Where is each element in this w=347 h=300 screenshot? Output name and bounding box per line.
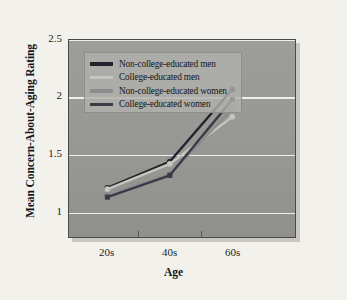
data-point-marker (105, 186, 111, 192)
data-point-marker (105, 195, 110, 200)
legend-item-label: Non-college-educated men (119, 59, 216, 69)
legend-item-label: Non-college-educated women (119, 86, 227, 96)
y-axis-tick-label: 1.5 (32, 147, 62, 159)
y-axis-tick-label: 1 (32, 205, 62, 217)
legend-item: Non-college-educated men (90, 57, 236, 71)
legend-swatch-icon (90, 89, 113, 93)
x-axis-minor-tick (201, 231, 203, 238)
data-point-marker (229, 114, 235, 120)
legend-item-label: College-educated women (119, 99, 210, 109)
legend-item: College-educated men (90, 71, 236, 85)
y-axis-title: Mean Concern-About-Aging Rating (24, 31, 36, 231)
data-point-marker (167, 161, 173, 167)
y-axis-tick-label: 2 (32, 89, 62, 101)
plot-area: Non-college-educated menCollege-educated… (68, 39, 296, 238)
chart-legend: Non-college-educated menCollege-educated… (84, 52, 242, 113)
legend-item: Non-college-educated women (90, 84, 236, 98)
y-axis-tick-label: 2.5 (32, 32, 62, 44)
data-point-marker (167, 173, 172, 178)
legend-swatch-icon (90, 62, 113, 66)
x-axis-tick-label: 40s (145, 246, 195, 258)
x-axis-minor-tick (138, 231, 140, 238)
x-axis-tick-label: 20s (82, 246, 132, 258)
x-axis-title: Age (0, 266, 347, 278)
chart-figure: Mean Concern-About-Aging Rating 2.521.51… (0, 0, 347, 300)
legend-swatch-icon (90, 76, 113, 80)
legend-swatch-icon (90, 103, 113, 107)
x-axis-tick-label: 60s (208, 246, 258, 258)
legend-item: College-educated women (90, 98, 236, 112)
legend-item-label: College-educated men (119, 72, 199, 82)
